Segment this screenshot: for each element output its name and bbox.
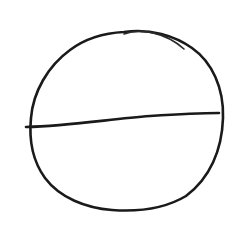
sketch-canvas bbox=[0, 0, 235, 238]
sketch-drawing bbox=[0, 0, 235, 238]
circle-overdraw-stroke bbox=[124, 31, 184, 49]
circle-outline bbox=[30, 31, 223, 211]
diameter-line bbox=[26, 113, 219, 127]
